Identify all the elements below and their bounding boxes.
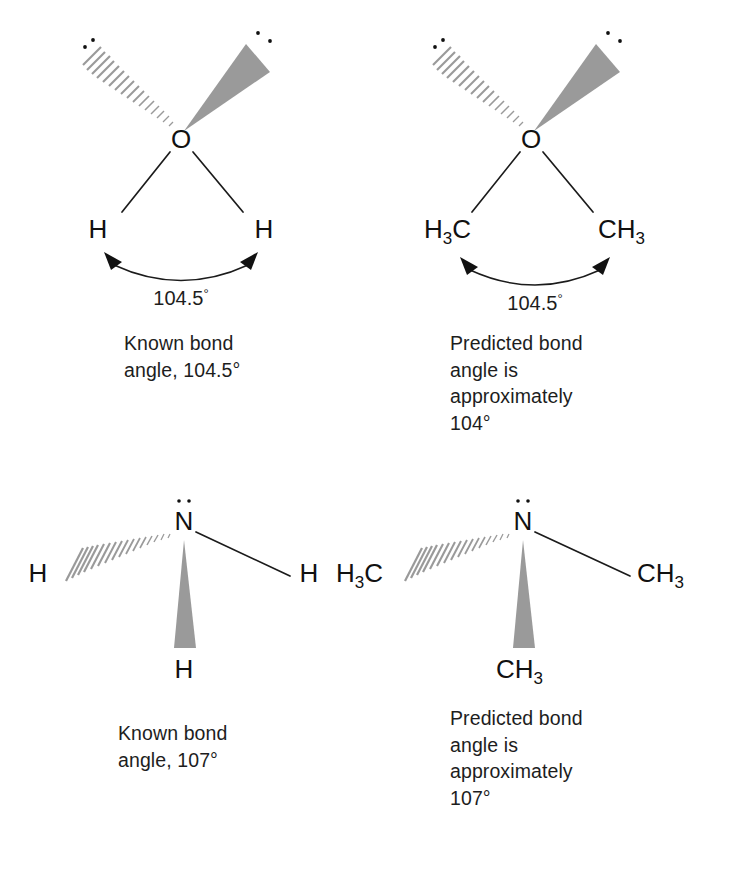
bond-n-methyl-right	[535, 532, 630, 576]
caption-water: Known bond angle, 104.5°	[124, 330, 354, 383]
lone-pair-dot	[526, 499, 530, 503]
atom-label-methyl-left: H3C	[336, 558, 383, 592]
atom-label-methyl-left: H3C	[424, 214, 471, 248]
panel-water: O H H 104.5° Known bond angle, 104.5°	[0, 0, 367, 440]
hashed-wedge-bond-left	[405, 534, 509, 581]
atom-label-nitrogen: N	[514, 506, 533, 536]
lone-pair-dot	[606, 31, 610, 35]
lone-pair-dot	[177, 499, 181, 503]
hashed-wedge-lone-pair-left	[83, 47, 173, 126]
lone-pair-dot	[187, 499, 191, 503]
dimethyl-ether-structure: O H3C CH3 104.5°	[330, 0, 734, 320]
atom-label-methyl-right: CH3	[637, 558, 684, 592]
atom-label-methyl-right: CH3	[598, 214, 645, 248]
hashed-wedge-lone-pair-left	[433, 47, 523, 126]
solid-wedge-bond-front	[174, 540, 196, 648]
caption-ammonia: Known bond angle, 107°	[118, 720, 348, 773]
bond-angle-value: 104.5°	[507, 291, 562, 315]
panel-dimethyl-ether: O H3C CH3 104.5° Predicted bond angle is…	[330, 0, 734, 440]
atom-label-oxygen: O	[171, 124, 191, 154]
molecular-geometry-figure: O H H 104.5° Known bond angle, 104.5°	[0, 0, 734, 881]
caption-dimethyl-ether: Predicted bond angle is approximately 10…	[450, 330, 700, 436]
hashed-wedge-bond-left	[66, 534, 170, 581]
lone-pair-dot	[91, 38, 95, 42]
lone-pair-dot	[268, 39, 272, 43]
lone-pair-dot	[516, 499, 520, 503]
lone-pair-dot	[441, 38, 445, 42]
bond-o-methyl-left	[472, 152, 520, 212]
atom-label-hydrogen-left: H	[29, 558, 48, 588]
trimethylamine-structure: N	[330, 480, 734, 690]
bond-angle-arc	[114, 265, 248, 281]
atom-label-hydrogen-right: H	[300, 558, 319, 588]
lone-pair-dot	[83, 45, 87, 49]
bond-o-methyl-right	[543, 152, 593, 212]
bond-n-h-right	[196, 532, 290, 576]
bond-o-h-left	[122, 152, 170, 212]
panel-trimethylamine: N	[330, 480, 734, 880]
lone-pair-dot	[433, 45, 437, 49]
atom-label-hydrogen-left: H	[89, 214, 108, 244]
solid-wedge-lone-pair-right	[534, 44, 620, 131]
atom-label-hydrogen-right: H	[255, 214, 274, 244]
caption-trimethylamine: Predicted bond angle is approximately 10…	[450, 705, 700, 811]
lone-pair-dot	[256, 31, 260, 35]
water-structure: O H H 104.5°	[0, 0, 367, 320]
lone-pair-dot	[618, 39, 622, 43]
panel-ammonia: N	[0, 480, 367, 880]
solid-wedge-lone-pair-right	[184, 44, 270, 131]
bond-angle-value: 104.5°	[153, 286, 208, 310]
bond-o-h-right	[193, 152, 243, 212]
atom-label-methyl-front: CH3	[496, 654, 543, 688]
atom-label-oxygen: O	[521, 124, 541, 154]
ammonia-structure: N	[0, 480, 367, 690]
atom-label-nitrogen: N	[175, 506, 194, 536]
bond-angle-arc	[470, 270, 600, 285]
solid-wedge-bond-front	[513, 540, 535, 648]
atom-label-hydrogen-front: H	[175, 654, 194, 684]
